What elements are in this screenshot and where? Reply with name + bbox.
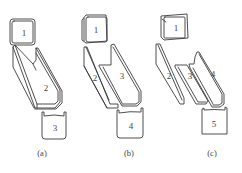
- part-label: 2: [93, 73, 98, 83]
- panel-a: 1 2 3 (a): [10, 19, 66, 158]
- part-label: 3: [188, 71, 193, 81]
- part-label: 4: [211, 69, 216, 79]
- panel-b: 1 2 3 4 (b): [82, 15, 143, 158]
- panel-caption: (a): [37, 148, 47, 158]
- exploded-channel-diagram: 1 2 3 (a) 1 2 3 4 (b): [0, 0, 242, 173]
- part-label: 3: [53, 123, 58, 133]
- part-label: 2: [167, 71, 172, 81]
- panel-a-part-2: [13, 45, 62, 109]
- part-label: 4: [129, 121, 134, 131]
- part-label: 1: [94, 25, 99, 35]
- panel-caption: (b): [124, 148, 134, 158]
- part-label: 3: [120, 71, 125, 81]
- panel-c: 1 2 3 4 5 (c): [156, 14, 227, 158]
- part-label: 1: [174, 23, 179, 33]
- part-label: 5: [212, 119, 217, 129]
- part-label: 2: [44, 83, 49, 93]
- panel-caption: (c): [207, 148, 217, 158]
- part-label: 1: [22, 28, 27, 38]
